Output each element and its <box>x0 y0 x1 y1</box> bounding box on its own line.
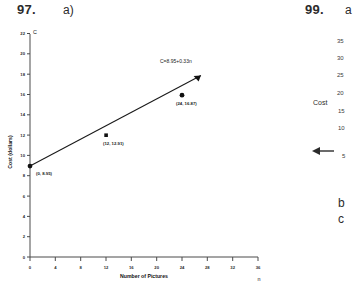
problem-99-part-b-label: b <box>338 196 345 210</box>
x-tick-36: 36 <box>256 265 261 270</box>
x-tick-0: 0 <box>29 265 32 270</box>
y-tick-18: 18 <box>20 72 25 77</box>
data-point-2-label: (24, 16.87) <box>176 101 197 106</box>
g99-y-tick-35: 35 <box>337 38 344 44</box>
y-axis-variable-label: C <box>33 29 37 35</box>
data-point-2: (24, 16.87) <box>176 93 197 106</box>
x-tick-8: 8 <box>80 265 83 270</box>
x-tick-16: 16 <box>129 265 134 270</box>
data-point-1: (12, 12.91) <box>103 133 124 146</box>
data-point-0-label: (0, 8.95) <box>36 171 53 176</box>
x-axis-title: Number of Pictures <box>120 273 168 279</box>
worksheet-page: 97. a) 0 2 4 <box>0 0 361 287</box>
data-point-1-label: (12, 12.91) <box>103 141 124 146</box>
y-tick-16: 16 <box>20 92 25 97</box>
x-tick-12: 12 <box>104 265 109 270</box>
x-tick-24: 24 <box>180 265 185 270</box>
y-tick-6: 6 <box>23 194 26 199</box>
x-tick-32: 32 <box>230 265 235 270</box>
g99-y-tick-5: 5 <box>342 153 345 159</box>
x-axis-variable-label: n <box>258 276 261 282</box>
x-tick-20: 20 <box>154 265 159 270</box>
y-tick-0: 0 <box>23 255 26 260</box>
y-tick-10: 10 <box>20 153 25 158</box>
g99-y-tick-25: 25 <box>337 72 344 78</box>
g99-left-arrow <box>312 146 334 156</box>
regression-equation-label: C=8.95+0.33n <box>160 58 192 64</box>
problem-99-number: 99. <box>305 2 324 17</box>
g99-y-tick-30: 30 <box>337 55 344 61</box>
problem-99-part-c-label: c <box>338 212 344 226</box>
x-axis: 0 4 8 12 16 20 24 28 32 36 <box>29 257 261 270</box>
y-tick-8: 8 <box>23 173 26 178</box>
y-tick-4: 4 <box>23 214 26 219</box>
problem-99-part-a-label: a <box>345 3 352 17</box>
x-tick-4: 4 <box>54 265 57 270</box>
y-tick-2: 2 <box>23 234 26 239</box>
g99-y-tick-10: 10 <box>338 125 345 131</box>
x-tick-28: 28 <box>205 265 210 270</box>
g99-y-tick-20: 20 <box>337 90 344 96</box>
chart-99a-partial: 35 30 25 20 15 10 5 Cost <box>312 30 361 190</box>
y-tick-14: 14 <box>20 112 25 117</box>
g99-y-tick-15: 15 <box>338 108 345 114</box>
regression-line <box>30 76 201 167</box>
y-tick-22: 22 <box>20 31 25 36</box>
data-point-0: (0, 8.95) <box>28 164 53 176</box>
y-tick-20: 20 <box>20 51 25 56</box>
y-axis: 0 2 4 6 8 10 12 14 16 18 20 22 <box>20 31 30 260</box>
g99-y-axis-title: Cost <box>313 99 327 106</box>
problem-97-number: 97. <box>17 2 36 17</box>
chart-97a-scatter-line: 0 2 4 6 8 10 12 14 16 18 20 22 <box>0 22 290 287</box>
y-axis-title: Cost (dollars) <box>7 135 13 169</box>
problem-97-part-label: a) <box>63 3 74 17</box>
y-tick-12: 12 <box>20 133 25 138</box>
